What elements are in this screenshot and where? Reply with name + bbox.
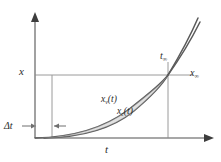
y-axis-label: x xyxy=(19,66,24,77)
delta-t-text: Δt xyxy=(4,120,13,131)
diagram-canvas xyxy=(0,0,221,162)
y-axis-label-text: x xyxy=(19,65,24,77)
x-axis-label: t xyxy=(105,144,108,155)
curve-xv-suffix: (t) xyxy=(108,94,117,104)
curve-label-xv: xv(t) xyxy=(101,95,117,106)
t-infinity-label: t∞ xyxy=(160,51,167,62)
figure-container: x t t∞ x∞ Δt xv(t) xc(t) xyxy=(0,0,221,162)
x-axis-label-text: t xyxy=(105,143,108,155)
curve-label-xc: xc(t) xyxy=(117,107,133,118)
curve-xc-suffix: (t) xyxy=(124,106,133,116)
x-infinity-subscript: ∞ xyxy=(194,72,198,79)
curve-gap-shading xyxy=(35,75,168,138)
t-infinity-subscript: ∞ xyxy=(163,55,167,62)
x-infinity-label: x∞ xyxy=(190,68,199,79)
curve-xc-stroke xyxy=(44,18,198,138)
delta-t-dimension-arrows xyxy=(22,124,66,129)
delta-t-label: Δt xyxy=(4,121,13,131)
